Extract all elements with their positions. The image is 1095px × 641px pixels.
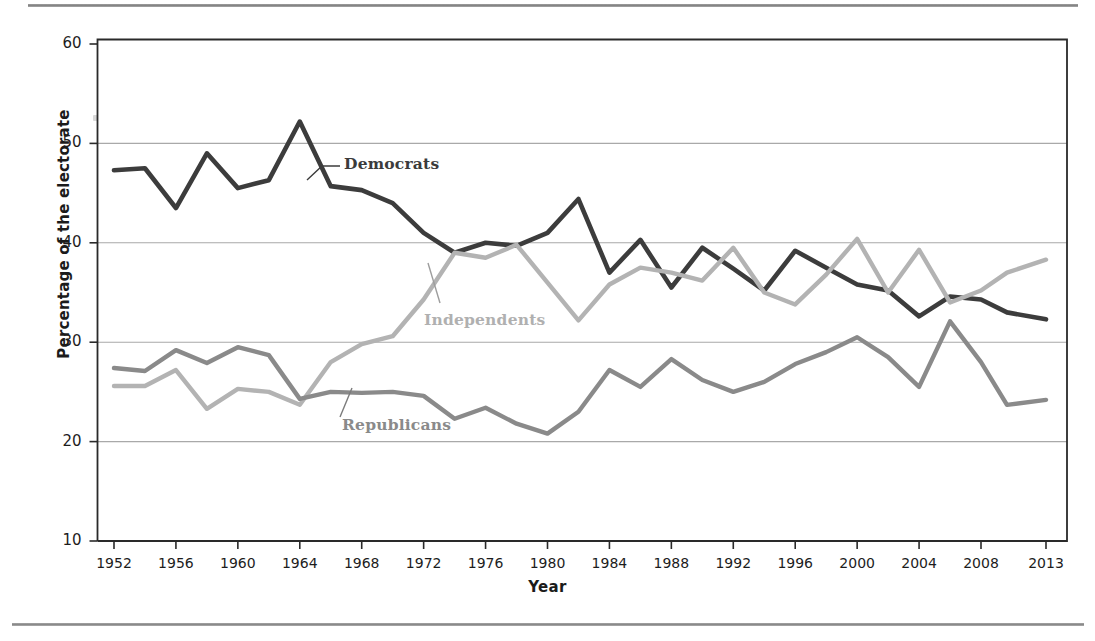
independents-leader — [428, 263, 440, 303]
y-tick-label-40: 40 — [42, 233, 82, 251]
y-tick-label-10: 10 — [42, 531, 82, 549]
figure-container: Percentage of the electorate Year 102030… — [0, 0, 1095, 641]
y-tick-label-30: 30 — [42, 332, 82, 350]
plot-frame — [98, 40, 1068, 542]
x-tick-label-2013: 2013 — [1016, 555, 1076, 571]
series-line-republicans — [114, 321, 1046, 433]
x-tick-label-1976: 1976 — [456, 555, 516, 571]
x-tick-label-1964: 1964 — [270, 555, 330, 571]
x-axis-title: Year — [0, 578, 1095, 596]
x-tick-label-2004: 2004 — [889, 555, 949, 571]
x-tick-label-1972: 1972 — [394, 555, 454, 571]
series-label-republicans: Republicans — [342, 415, 451, 434]
y-tick-label-20: 20 — [42, 432, 82, 450]
x-tick-label-2008: 2008 — [951, 555, 1011, 571]
x-tick-label-1996: 1996 — [765, 555, 825, 571]
x-tick-label-1952: 1952 — [84, 555, 144, 571]
y-tick-label-60: 60 — [42, 34, 82, 52]
x-tick-label-1992: 1992 — [703, 555, 763, 571]
series-line-democrats — [114, 122, 1046, 320]
y-tick-label-50: 50 — [42, 133, 82, 151]
x-tick-label-1980: 1980 — [518, 555, 578, 571]
series-label-independents: Independents — [424, 310, 545, 329]
x-tick-label-1968: 1968 — [332, 555, 392, 571]
x-tick-label-2000: 2000 — [827, 555, 887, 571]
series-label-democrats: Democrats — [344, 154, 439, 173]
x-tick-label-1956: 1956 — [146, 555, 206, 571]
x-tick-label-1960: 1960 — [208, 555, 268, 571]
line-chart-plot — [0, 0, 1095, 641]
x-tick-label-1988: 1988 — [641, 555, 701, 571]
x-tick-label-1984: 1984 — [579, 555, 639, 571]
series-line-independents — [114, 239, 1046, 409]
